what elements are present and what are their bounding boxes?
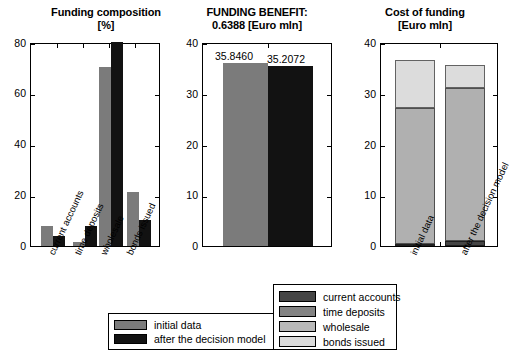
chart1-ytick-40: 40 — [0, 138, 26, 150]
chart3-ytick-30: 30 — [350, 88, 376, 100]
chart2-tick — [203, 197, 207, 198]
chart3-tick — [440, 242, 441, 246]
legend-label-current-accounts: current accounts — [323, 292, 401, 302]
legend-swatch-initial-data — [114, 320, 147, 330]
chart2-tick — [327, 95, 331, 96]
stack2-seg-wholesale — [445, 65, 485, 88]
legend-label-wholesale: wholesale — [323, 322, 370, 332]
chart3-tick — [381, 95, 385, 96]
chart1-tick — [135, 44, 136, 48]
stack1-seg-wholesale — [395, 60, 435, 108]
chart2-value-label-model: 35.2072 — [250, 53, 322, 65]
chart1-tick — [31, 197, 35, 198]
legend-item-time-deposits[interactable]: time deposits — [279, 304, 391, 319]
chart2-ytick-40: 40 — [172, 37, 198, 49]
chart1-tick — [109, 44, 110, 48]
chart2-tick — [203, 146, 207, 147]
legend-item-current-accounts[interactable]: current accounts — [279, 289, 391, 304]
chart3-tick — [440, 44, 441, 48]
legend-item-after-decision-model[interactable]: after the decision model — [114, 332, 268, 346]
chart2-title: FUNDING BENEFIT: 0.6388 [Euro mln] — [182, 6, 332, 32]
chart3-tick — [493, 95, 497, 96]
bar-benefit-model — [268, 66, 313, 246]
chart3-title-line1: Cost of funding — [385, 6, 465, 18]
chart2-plot-area — [202, 43, 332, 247]
chart1-ytick-80: 80 — [0, 37, 26, 49]
chart3-tick — [493, 146, 497, 147]
chart1-ytick-20: 20 — [0, 189, 26, 201]
chart2-tick — [203, 95, 207, 96]
chart1-title: Funding composition [%] — [16, 6, 196, 32]
chart3-tick — [381, 44, 385, 45]
chart2-ytick-0: 0 — [172, 240, 198, 252]
chart2-title-line2: 0.6388 [Euro mln] — [182, 19, 332, 32]
chart2-ytick-20: 20 — [172, 139, 198, 151]
chart1-title-line2: [%] — [16, 19, 196, 32]
chart3-tick — [381, 146, 385, 147]
legend-swatch-wholesale — [279, 321, 316, 332]
legend-label-after-decision-model: after the decision model — [154, 334, 265, 344]
chart3-ytick-10: 10 — [350, 189, 376, 201]
legend-item-bonds-issued[interactable]: bonds issued — [279, 334, 391, 349]
chart3-ytick-0: 0 — [350, 240, 376, 252]
chart3-ytick-20: 20 — [350, 139, 376, 151]
chart1-tick — [57, 44, 58, 48]
legend-label-bonds-issued: bonds issued — [323, 337, 385, 347]
legend-swatch-current-accounts — [279, 291, 316, 302]
legend-swatch-after-decision-model — [114, 334, 147, 344]
legend-series: initial data after the decision model — [108, 313, 274, 350]
chart3-ytick-40: 40 — [350, 37, 376, 49]
chart3-title-line2: [Euro mln] — [355, 19, 495, 32]
legend-swatch-bonds-issued — [279, 336, 316, 347]
chart1-tick — [31, 95, 35, 96]
legend-label-time-deposits: time deposits — [323, 307, 385, 317]
chart1-tick — [83, 44, 84, 48]
legend-item-initial-data[interactable]: initial data — [114, 318, 268, 332]
chart2-title-line1: FUNDING BENEFIT: — [206, 6, 307, 18]
chart2-tick — [268, 44, 269, 48]
chart3-tick — [381, 197, 385, 198]
bar-wholesale-initial — [99, 67, 111, 246]
chart1-title-line1: Funding composition — [51, 6, 161, 18]
chart2-ytick-30: 30 — [172, 88, 198, 100]
chart2-tick — [327, 197, 331, 198]
chart2-tick — [327, 146, 331, 147]
chart2-ytick-10: 10 — [172, 189, 198, 201]
legend-categories: current accounts time deposits wholesale… — [273, 284, 397, 350]
chart1-ytick-0: 0 — [0, 240, 26, 252]
chart1-tick — [155, 146, 159, 147]
chart1-tick — [31, 146, 35, 147]
chart1-tick — [155, 197, 159, 198]
chart1-tick — [155, 95, 159, 96]
chart1-tick — [31, 44, 35, 45]
legend-swatch-time-deposits — [279, 306, 316, 317]
chart2-tick — [203, 44, 207, 45]
bar-benefit-initial — [223, 63, 268, 246]
chart3-title: Cost of funding [Euro mln] — [355, 6, 495, 32]
legend-label-initial-data: initial data — [154, 320, 201, 330]
legend-item-wholesale[interactable]: wholesale — [279, 319, 391, 334]
chart1-ytick-60: 60 — [0, 87, 26, 99]
